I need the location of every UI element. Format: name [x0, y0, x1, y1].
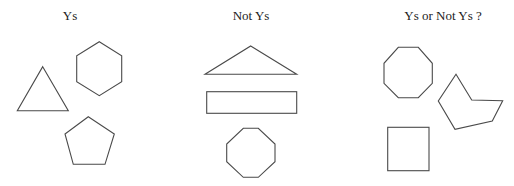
pentagon-shape [65, 117, 114, 165]
octagon-shape [227, 128, 275, 177]
flat-triangle-shape [205, 46, 297, 74]
octagon-shape [384, 47, 432, 97]
square-shape [388, 127, 429, 170]
panel-question [384, 47, 503, 170]
triangle-shape [17, 67, 68, 111]
hexagon-shape [77, 42, 122, 96]
panel-not-ys [205, 46, 297, 177]
concave-pentagon-shape [438, 74, 502, 129]
rectangle-shape [207, 92, 297, 114]
shapes-canvas [0, 0, 514, 186]
panel-ys [17, 42, 121, 165]
